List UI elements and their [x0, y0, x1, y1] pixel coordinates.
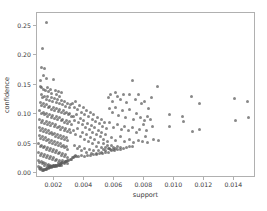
data-point [106, 140, 109, 143]
y-tick-label: 0.05 [17, 139, 31, 146]
x-tick-mark [173, 177, 174, 180]
y-tick-label: 0.25 [17, 21, 31, 28]
data-point [114, 91, 117, 94]
y-tick-label: 0.20 [17, 51, 31, 58]
x-tick-label: 0.008 [134, 181, 152, 188]
data-point [119, 98, 122, 101]
data-point [125, 101, 128, 104]
data-point [120, 128, 123, 131]
data-point [110, 136, 113, 139]
data-point [86, 122, 89, 125]
data-point [102, 138, 105, 141]
scatter-plot-figure: support confidence 0.0020.0040.0060.0080… [0, 0, 267, 211]
data-point [181, 115, 184, 118]
data-point [121, 109, 124, 112]
data-point [79, 135, 82, 138]
x-tick-mark [53, 177, 54, 180]
y-tick-mark [33, 143, 36, 144]
data-point [145, 129, 148, 132]
data-point [132, 118, 135, 121]
data-point [128, 93, 131, 96]
data-point [90, 124, 93, 127]
data-point [83, 113, 86, 116]
data-point [107, 96, 110, 99]
data-point [112, 126, 115, 129]
data-point [50, 92, 53, 95]
data-point [143, 119, 146, 122]
data-point [82, 106, 85, 109]
data-point [84, 126, 87, 129]
data-point [82, 119, 85, 122]
data-point [168, 113, 171, 116]
data-point [91, 118, 94, 121]
data-point [131, 145, 134, 148]
data-point [116, 123, 119, 126]
data-point [191, 130, 194, 133]
data-point [88, 128, 91, 131]
data-point [247, 116, 250, 119]
data-point [146, 115, 149, 118]
data-point [137, 93, 140, 96]
data-point [46, 95, 49, 98]
data-point [182, 120, 185, 123]
data-point [60, 91, 63, 94]
data-point [87, 115, 90, 118]
data-point [123, 125, 126, 128]
data-point [81, 123, 84, 126]
data-point [91, 131, 94, 134]
data-point [81, 131, 84, 134]
data-point [109, 93, 112, 96]
data-point [73, 144, 76, 147]
data-point [95, 145, 98, 148]
data-point [127, 129, 130, 132]
data-point [74, 100, 77, 103]
data-point [147, 107, 150, 110]
data-point [137, 139, 140, 142]
data-point [138, 128, 141, 131]
data-point [71, 102, 74, 105]
x-tick-label: 0.006 [104, 181, 122, 188]
y-tick-mark [33, 113, 36, 114]
data-point [64, 105, 67, 108]
data-point [104, 133, 107, 136]
data-point [123, 140, 126, 143]
data-point [151, 125, 154, 128]
data-point [101, 125, 104, 128]
data-point [108, 121, 111, 124]
plot-area [36, 12, 255, 177]
data-point [58, 95, 61, 98]
data-point [114, 106, 117, 109]
data-point [139, 116, 142, 119]
data-point [131, 79, 134, 82]
data-point [89, 136, 92, 139]
data-point [45, 77, 48, 80]
data-point [156, 85, 159, 88]
data-point [152, 138, 155, 141]
data-point [43, 67, 46, 70]
data-point [97, 141, 100, 144]
data-point [124, 116, 127, 119]
x-tick-label: 0.012 [194, 181, 212, 188]
data-point [157, 139, 160, 142]
data-point [135, 112, 138, 115]
data-point [131, 126, 134, 129]
y-tick-mark [33, 84, 36, 85]
x-tick-mark [83, 177, 84, 180]
data-point [80, 111, 83, 114]
data-point [42, 74, 45, 77]
data-point [78, 104, 81, 107]
data-point [75, 113, 78, 116]
data-point [234, 119, 237, 122]
data-point [190, 95, 193, 98]
data-point [41, 47, 44, 50]
data-point [95, 133, 98, 136]
data-point [73, 106, 76, 109]
data-point [100, 131, 103, 134]
data-point [198, 128, 201, 131]
data-point [111, 111, 114, 114]
y-tick-mark [33, 54, 36, 55]
data-point [93, 138, 96, 141]
data-point [143, 100, 146, 103]
data-point [49, 88, 52, 91]
data-point [111, 100, 114, 103]
